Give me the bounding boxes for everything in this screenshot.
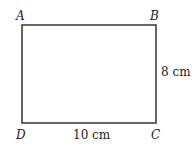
vertex-label-c: C — [151, 128, 160, 142]
vertex-label-d: D — [15, 128, 26, 142]
vertex-label-a: A — [15, 9, 25, 23]
width-label: 10 cm — [73, 128, 111, 142]
rectangle-abcd — [22, 25, 156, 123]
rectangle-diagram: A B C D 10 cm 8 cm — [0, 0, 196, 147]
height-label: 8 cm — [161, 65, 191, 79]
vertex-label-b: B — [149, 9, 159, 23]
